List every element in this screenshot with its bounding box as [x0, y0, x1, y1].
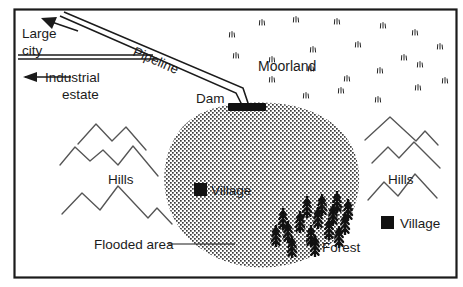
label-hills-right: Hills	[388, 172, 414, 187]
label-industrial-estate-line2: estate	[62, 87, 99, 102]
label-dam: Dam	[196, 91, 225, 106]
reservoir-map-figure: Large city Industrial estate Pipeline Da…	[0, 0, 463, 287]
label-forest: Forest	[322, 240, 361, 255]
village-marker-icon-map	[194, 183, 207, 196]
label-flooded-area: Flooded area	[94, 237, 174, 252]
label-moorland: Moorland	[258, 58, 316, 74]
label-village-on-map: Village	[211, 183, 251, 198]
map-canvas: Large city Industrial estate Pipeline Da…	[0, 0, 463, 287]
dam-group	[228, 103, 266, 111]
village-marker-icon-legend	[381, 216, 394, 229]
label-large-city-line2: city	[22, 43, 43, 58]
dam-marker-icon	[228, 103, 266, 111]
label-hills-left: Hills	[108, 172, 134, 187]
label-industrial-estate-line1: Industrial	[45, 70, 100, 85]
label-large-city-line1: Large	[22, 26, 57, 41]
label-village-legend: Village	[400, 216, 440, 231]
